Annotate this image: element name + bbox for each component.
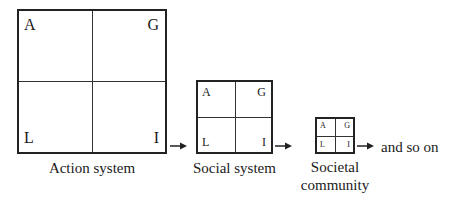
quadrant-a: A — [24, 17, 36, 33]
quadrant-l: L — [24, 130, 34, 146]
right-arrow-icon — [275, 141, 293, 151]
societal-community-label: Societal community — [295, 158, 375, 194]
horizontal-divider — [19, 81, 165, 82]
quadrant-l: L — [202, 136, 209, 148]
label-line-1: Societal — [295, 158, 375, 176]
right-arrow-icon — [170, 141, 188, 151]
action-system-label: Action system — [17, 159, 167, 177]
quadrant-g: G — [147, 17, 159, 33]
societal-community-box: A G L I — [315, 117, 355, 154]
quadrant-a: A — [320, 122, 326, 130]
horizontal-divider — [198, 117, 271, 118]
quadrant-i: I — [262, 136, 266, 148]
label-line-2: community — [295, 176, 375, 194]
agil-nested-systems-diagram: A G L I Action system A G L I Social sys… — [0, 0, 450, 198]
quadrant-i: I — [347, 141, 350, 149]
quadrant-a: A — [202, 86, 211, 98]
and-so-on-text: and so on — [381, 138, 439, 156]
quadrant-l: L — [320, 141, 325, 149]
social-system-box: A G L I — [196, 80, 273, 154]
action-system-box: A G L I — [17, 9, 167, 154]
quadrant-g: G — [257, 86, 266, 98]
horizontal-divider — [317, 136, 353, 137]
right-arrow-icon — [357, 141, 375, 151]
quadrant-g: G — [344, 122, 350, 130]
quadrant-i: I — [154, 130, 159, 146]
social-system-label: Social system — [186, 159, 283, 177]
